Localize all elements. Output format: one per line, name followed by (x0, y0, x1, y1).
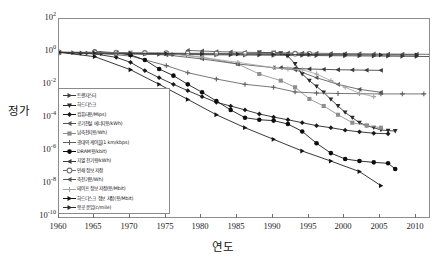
y-tick-label: 10-6 (10, 145, 56, 154)
x-tick-label: 1980 (183, 221, 217, 231)
legend-item[interactable]: 컴퓨터용/Mips) (62, 110, 167, 119)
legend-item[interactable]: 인쇄 정보 저장 (62, 166, 167, 175)
legend-item-label: 항공 운임(c/mile) (77, 203, 111, 212)
legend-item[interactable]: 항공 운임(c/mile) (62, 203, 167, 212)
x-tick-label: 2010 (398, 221, 432, 231)
right-triangle-dark-icon (62, 194, 77, 203)
x-axis-title: 연도 (0, 238, 445, 254)
x-tick-mark (129, 214, 130, 218)
left-triangle-icon (62, 119, 77, 128)
left-triangle-small-icon (62, 157, 77, 166)
x-tick-mark (93, 214, 94, 218)
legend-item-label: 하드디스크 (77, 100, 96, 109)
x-tick-mark (200, 214, 201, 218)
legend-item-label: 테이프 정보 저장(용/Mbit) (77, 184, 126, 193)
legend-item-label: 하드디스크 정보 저장(용/Mbit) (77, 194, 133, 203)
y-tick-label: 10-2 (10, 79, 56, 88)
legend-item[interactable]: 광대역 케이블(1 km/kbps) (62, 138, 167, 147)
plus-icon (62, 138, 77, 147)
x-tick-label: 1965 (76, 221, 110, 231)
x-tick-label: 1970 (112, 221, 146, 231)
legend-item[interactable]: 지열 전기용/kWh) (62, 156, 167, 165)
x-tick-mark (236, 214, 237, 218)
x-tick-label: 2000 (326, 221, 360, 231)
y-tick-label: 102 (10, 13, 56, 22)
square-icon (62, 129, 77, 138)
x-tick-mark (58, 214, 59, 218)
right-triangle-icon (62, 91, 77, 100)
plus-gray-icon (62, 185, 77, 194)
x-tick-mark (415, 214, 416, 218)
legend-item[interactable]: 테이프 정보 저장(용/Mbit) (62, 184, 167, 193)
x-tick-mark (272, 214, 273, 218)
legend-item-label: 인쇄 정보 저장 (77, 166, 103, 175)
x-axis-tick-labels: 1960 1965 1970 1975 1980 1985 1990 1995 … (0, 221, 445, 235)
y-tick-label: 100 (10, 46, 56, 55)
x-tick-label: 1975 (148, 221, 182, 231)
x-tick-mark (165, 214, 166, 218)
chart-figure: 102 100 10-2 10-4 10-6 10-8 10-10 1960 1… (0, 0, 445, 263)
legend-item[interactable]: 하드디스크 (62, 100, 167, 109)
legend-item-label: DRAM용/kbit) (77, 147, 107, 156)
legend-item-label: 트랜지스터 (77, 91, 96, 100)
circle-dot-icon (62, 166, 77, 175)
legend-item[interactable]: 트랜지스터 (62, 91, 167, 100)
legend-item[interactable]: 공기전설 에너지용/kWh) (62, 119, 167, 128)
legend-item-label: 납축전지용/Wh) (77, 128, 107, 137)
down-triangle-icon (62, 101, 77, 110)
x-tick-label: 1985 (219, 221, 253, 231)
x-tick-label: 2005 (362, 221, 396, 231)
legend-item[interactable]: 축전기용/Wh) (62, 175, 167, 184)
circle-filled-icon (62, 147, 77, 156)
x-tick-label: 1990 (255, 221, 289, 231)
legend-item-label: 공기전설 에너지용/kWh) (77, 119, 123, 128)
legend-item-label: 축전기용/Wh) (77, 175, 103, 184)
x-tick-mark (308, 214, 309, 218)
legend-item-label: 광대역 케이블(1 km/kbps) (77, 138, 129, 147)
right-arrow-icon (62, 203, 77, 212)
y-axis-title: 정가 (8, 102, 30, 118)
legend-item-label: 지열 전기용/kWh) (77, 156, 111, 165)
x-tick-mark (379, 214, 380, 218)
x-tick-label: 1995 (291, 221, 325, 231)
legend-item-label: 컴퓨터용/Mips) (77, 110, 106, 119)
legend-item[interactable]: DRAM용/kbit) (62, 147, 167, 156)
legend-item[interactable]: 납축전지용/Wh) (62, 128, 167, 137)
diamond-icon (62, 110, 77, 119)
x-tick-mark (343, 214, 344, 218)
y-tick-label: 10-10 (10, 211, 56, 220)
chart-legend: 트랜지스터하드디스크컴퓨터용/Mips)공기전설 에너지용/kWh)납축전지용/… (58, 88, 170, 214)
x-tick-label: 1960 (41, 221, 75, 231)
left-triangle-icon (62, 175, 77, 184)
legend-item[interactable]: 하드디스크 정보 저장(용/Mbit) (62, 194, 167, 203)
y-tick-label: 10-8 (10, 178, 56, 187)
